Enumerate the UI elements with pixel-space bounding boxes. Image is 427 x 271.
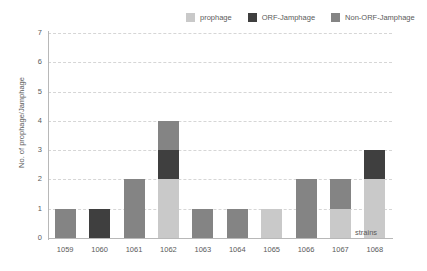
x-axis-tick-label: 1059 [48, 245, 82, 254]
bar-group[interactable] [48, 33, 82, 238]
bar-stack [89, 209, 110, 238]
bar-segment[interactable] [158, 121, 179, 150]
bar-segment[interactable] [55, 209, 76, 238]
bar-stack [261, 209, 282, 238]
legend-label: ORF-Jamphage [262, 13, 315, 22]
bar-segment[interactable] [330, 209, 351, 238]
bar-segment[interactable] [124, 179, 145, 238]
legend-entry[interactable]: Non-ORF-Jamphage [331, 13, 415, 22]
y-axis-tick-label: 4 [0, 117, 42, 125]
bar-stack [124, 179, 145, 238]
x-axis-tick-label: 1064 [220, 245, 254, 254]
bar-group[interactable] [220, 33, 254, 238]
bar-segment[interactable] [192, 209, 213, 238]
x-axis-tick-label: 1061 [117, 245, 151, 254]
y-axis-tick-label: 3 [0, 146, 42, 154]
x-axis-tick-labels: 1059106010611062106310641065106610671068 [48, 245, 392, 254]
bar-stack [158, 121, 179, 238]
bar-group[interactable] [186, 33, 220, 238]
bar-segment[interactable] [330, 179, 351, 208]
legend-entry[interactable]: ORF-Jamphage [248, 13, 315, 22]
y-axis-tick-labels: 01234567 [0, 33, 42, 238]
bar-segment[interactable] [158, 179, 179, 238]
legend-label: Non-ORF-Jamphage [345, 13, 415, 22]
bar-stack [296, 179, 317, 238]
bar-segment[interactable] [364, 150, 385, 179]
y-axis-tick-label: 7 [0, 29, 42, 37]
x-axis-line [48, 238, 393, 239]
legend-swatch-icon [331, 13, 340, 22]
chart-legend: prophageORF-JamphageNon-ORF-Jamphage [186, 9, 415, 25]
y-axis-tick-label: 2 [0, 175, 42, 183]
bar-stack [330, 179, 351, 238]
bar-group[interactable] [358, 33, 392, 238]
bar-group[interactable] [82, 33, 116, 238]
bar-segment[interactable] [227, 209, 248, 238]
legend-entry[interactable]: prophage [186, 13, 232, 22]
x-axis-tick-label: 1060 [82, 245, 116, 254]
bar-segment[interactable] [89, 209, 110, 238]
x-axis-tick-label: 1065 [254, 245, 288, 254]
bar-segment[interactable] [158, 150, 179, 179]
bar-segment[interactable] [296, 179, 317, 238]
x-axis-title: strains [355, 228, 377, 237]
bar-series-container [48, 33, 392, 238]
legend-label: prophage [200, 13, 232, 22]
x-axis-tick-label: 1062 [151, 245, 185, 254]
legend-swatch-icon [186, 13, 195, 22]
bar-group[interactable] [151, 33, 185, 238]
bar-group[interactable] [289, 33, 323, 238]
stacked-bar-chart: prophageORF-JamphageNon-ORF-Jamphage No.… [0, 0, 427, 271]
y-axis-tick-label: 1 [0, 205, 42, 213]
bar-group[interactable] [323, 33, 357, 238]
y-axis-tick-label: 5 [0, 88, 42, 96]
legend-swatch-icon [248, 13, 257, 22]
bar-stack [55, 209, 76, 238]
x-axis-tick-label: 1063 [186, 245, 220, 254]
x-axis-tick-label: 1066 [289, 245, 323, 254]
x-axis-tick-label: 1068 [358, 245, 392, 254]
bar-group[interactable] [254, 33, 288, 238]
y-axis-tick-label: 6 [0, 58, 42, 66]
bar-stack [192, 209, 213, 238]
x-axis-tick-label: 1067 [323, 245, 357, 254]
bar-segment[interactable] [261, 209, 282, 238]
bar-stack [364, 150, 385, 238]
bar-group[interactable] [117, 33, 151, 238]
bar-stack [227, 209, 248, 238]
y-axis-tick-label: 0 [0, 234, 42, 242]
